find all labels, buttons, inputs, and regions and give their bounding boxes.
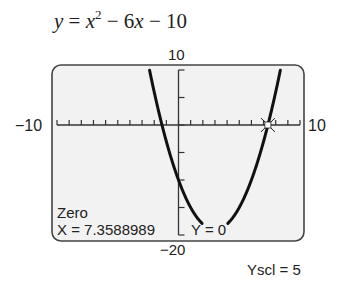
yscl-note: Yscl = 5 (247, 261, 301, 278)
xmax-label: 10 (308, 117, 326, 135)
readout-x: X = 7.3588989 (57, 221, 155, 238)
readout-mode: Zero (57, 204, 88, 221)
xmin-label: −10 (15, 117, 42, 135)
ymin-label: −20 (160, 241, 185, 258)
readout-y: Y = 0 (191, 221, 226, 238)
ymax-label: 10 (168, 46, 185, 63)
